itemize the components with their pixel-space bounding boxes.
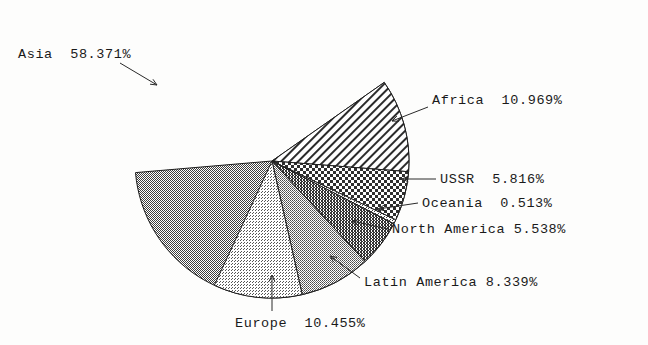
pie-label-ussr: USSR 5.816%: [440, 172, 544, 187]
pie-label-north-america: North America 5.538%: [392, 222, 566, 237]
pie-label-oceania: Oceania 0.513%: [422, 196, 553, 211]
pie-slice-africa[interactable]: [272, 82, 409, 171]
pie-label-africa: Africa 10.969%: [432, 93, 563, 108]
pie-label-asia: Asia 58.371%: [18, 47, 131, 62]
leader-line-asia: [120, 63, 157, 85]
pie-label-latin-america: Latin America 8.339%: [364, 275, 538, 290]
pie-slices-group: [135, 82, 409, 298]
pie-label-europe: Europe 10.455%: [235, 316, 366, 331]
pie-chart: Asia 58.371%Africa 10.969%USSR 5.816%Oce…: [0, 0, 648, 345]
